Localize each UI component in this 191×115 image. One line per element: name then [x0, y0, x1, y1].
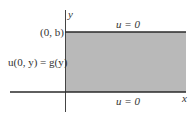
bottom-boundary-condition: u = 0 [116, 96, 140, 107]
top-boundary-condition: u = 0 [116, 19, 140, 30]
corner-point-label: (0, b) [40, 27, 64, 38]
shaded-region [66, 32, 186, 92]
strip-domain-diagram: y (0, b) u = 0 u(0, y) = g(y) u = 0 x [0, 0, 191, 115]
y-axis-label: y [68, 9, 73, 20]
x-axis-label: x [182, 93, 187, 104]
left-boundary-condition: u(0, y) = g(y) [8, 57, 67, 68]
